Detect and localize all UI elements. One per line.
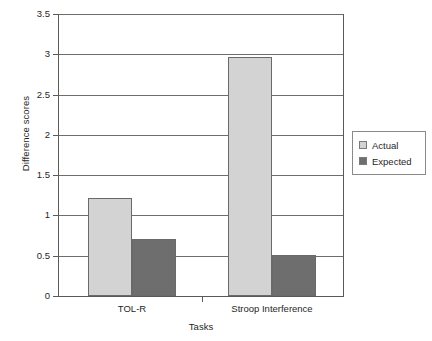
bar-expected-stroop-interference: [272, 255, 316, 296]
y-tick-label-0.5: 0.5: [4, 250, 50, 261]
legend-label-expected: Expected: [372, 156, 412, 167]
legend-item-actual[interactable]: Actual: [359, 138, 420, 152]
y-tickmark-0: [53, 296, 58, 297]
y-tick-label-0: 0: [4, 290, 50, 301]
legend-swatch-expected: [359, 157, 367, 165]
y-tick-label-3.5: 3.5: [4, 8, 50, 19]
x-category-label-stroop-interference: Stroop Interference: [202, 303, 342, 314]
bar-expected-tol-r: [132, 239, 176, 296]
y-tick-label-2.5: 2.5: [4, 89, 50, 100]
y-tick-label-1: 1: [4, 209, 50, 220]
legend-swatch-actual: [359, 141, 367, 149]
x-axis-title: Tasks: [58, 321, 344, 332]
y-tick-label-1.5: 1.5: [4, 169, 50, 180]
bar-actual-tol-r: [88, 198, 132, 296]
legend: Actual Expected: [352, 131, 426, 175]
legend-item-expected[interactable]: Expected: [359, 154, 420, 168]
bar-actual-stroop-interference: [228, 57, 272, 296]
bar-chart: Difference scores 00.511.522.533.5 TOL-R…: [0, 0, 432, 341]
category-separator-tick: [202, 296, 203, 302]
legend-label-actual: Actual: [372, 140, 398, 151]
gridline-0: [58, 296, 344, 297]
x-category-label-tol-r: TOL-R: [62, 303, 202, 314]
plot-frame-right-edge: [343, 14, 344, 296]
y-tick-label-2: 2: [4, 129, 50, 140]
y-tick-label-3: 3: [4, 48, 50, 59]
